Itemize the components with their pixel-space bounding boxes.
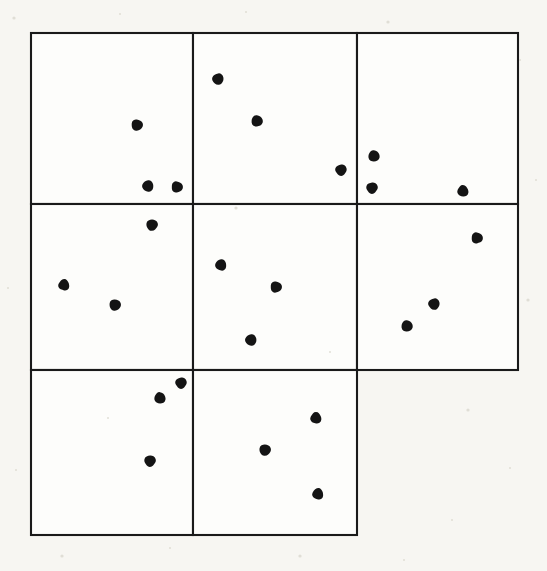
- paper-speckle: [298, 554, 301, 557]
- quadrat-cell: [357, 204, 518, 370]
- paper-speckle: [119, 13, 121, 15]
- paper-speckle: [386, 20, 389, 23]
- quadrat-cell: [193, 370, 357, 535]
- paper-speckle: [245, 11, 247, 13]
- paper-speckle: [466, 408, 469, 411]
- paper-speckle: [12, 16, 15, 19]
- paper-speckle: [403, 559, 405, 561]
- quadrat-cell: [31, 33, 193, 204]
- paper-speckle: [451, 519, 453, 521]
- scatter-quadrat-figure: [0, 0, 547, 571]
- quadrat-cell: [31, 370, 193, 535]
- paper-speckle: [234, 206, 237, 209]
- quadrat-cell: [31, 204, 193, 370]
- quadrat-cell: [193, 33, 357, 204]
- paper-speckle: [169, 547, 171, 549]
- figure-canvas: [0, 0, 547, 571]
- paper-speckle: [526, 298, 529, 301]
- paper-speckle: [329, 351, 331, 353]
- paper-speckle: [509, 467, 511, 469]
- paper-speckle: [107, 417, 109, 419]
- paper-speckle: [535, 179, 537, 181]
- paper-speckle: [60, 554, 63, 557]
- quadrat-cell: [357, 33, 518, 204]
- paper-speckle: [7, 287, 9, 289]
- paper-speckle: [519, 59, 521, 61]
- paper-speckle: [15, 469, 17, 471]
